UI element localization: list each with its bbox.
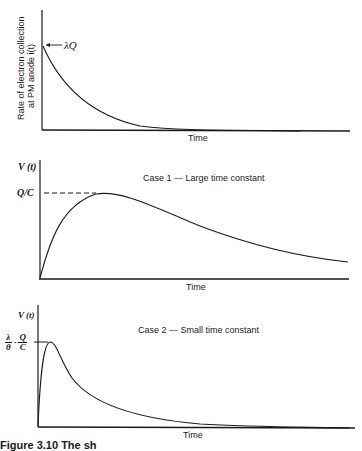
lambda-over-theta: λ θ bbox=[5, 333, 12, 352]
panel1-y-axis-label: Rate of electron collection at PM anode … bbox=[16, 16, 36, 120]
voltage-curve-large-tau bbox=[40, 193, 348, 278]
y-label-line1: Rate of electron collection bbox=[16, 16, 26, 120]
decay-curve bbox=[43, 46, 300, 131]
panel-current bbox=[42, 10, 350, 131]
case1-title: Case 1 — Large time constant bbox=[143, 173, 265, 183]
q-over-c-label: Q/C bbox=[17, 187, 34, 198]
voltage-curve-small-tau bbox=[38, 342, 350, 428]
peak-value-label: λ θ · Q C bbox=[5, 333, 27, 352]
panel3-y-axis-label: V (t) bbox=[18, 310, 35, 320]
case2-title: Case 2 — Small time constant bbox=[138, 325, 259, 335]
q-over-c: Q C bbox=[18, 333, 27, 352]
panel1-x-axis-label: Time bbox=[188, 133, 208, 143]
panel-case2 bbox=[34, 305, 355, 428]
panel3-x-axis-label: Time bbox=[183, 430, 203, 440]
figure-caption: Figure 3.10 The sh bbox=[0, 439, 97, 451]
panel2-x-axis-label: Time bbox=[186, 282, 206, 292]
lambda-q-label: λQ bbox=[64, 39, 77, 51]
y-label-line2: at PM anode i(t) bbox=[26, 16, 36, 120]
panel2-y-axis-label: V (t) bbox=[18, 161, 36, 172]
